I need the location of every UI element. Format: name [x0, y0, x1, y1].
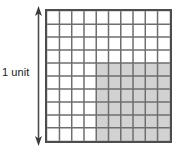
shaded-cell: [145, 89, 157, 102]
shaded-cell: [109, 115, 121, 128]
shaded-cell: [133, 102, 145, 115]
arrow-shaft-and-heads: [35, 6, 42, 146]
shaded-cell: [121, 115, 133, 128]
shaded-cell: [158, 115, 170, 128]
shaded-cell: [145, 76, 157, 89]
shaded-cell: [96, 115, 108, 128]
shaded-cell: [158, 63, 170, 76]
shaded-cell: [96, 89, 108, 102]
shaded-cell: [121, 63, 133, 76]
shaded-cell: [158, 76, 170, 89]
shaded-cell: [109, 76, 121, 89]
shaded-cell: [96, 63, 108, 76]
ten-by-ten-grid: [45, 9, 172, 143]
shaded-cell: [145, 102, 157, 115]
shaded-cell: [109, 89, 121, 102]
shaded-cell: [96, 76, 108, 89]
shaded-cell: [145, 115, 157, 128]
shaded-cell: [133, 63, 145, 76]
shaded-cell: [96, 128, 108, 141]
shaded-cell: [145, 63, 157, 76]
shaded-cell: [121, 76, 133, 89]
shaded-cell: [145, 128, 157, 141]
shaded-cell: [96, 102, 108, 115]
shaded-cell: [158, 102, 170, 115]
shaded-cell: [109, 128, 121, 141]
vertical-double-headed-arrow: [32, 6, 45, 146]
grid-diagram: 1 unit: [0, 0, 187, 155]
shaded-cell: [109, 102, 121, 115]
shaded-cell: [121, 102, 133, 115]
shaded-cell: [121, 128, 133, 141]
shaded-cell: [133, 89, 145, 102]
shaded-cell: [133, 128, 145, 141]
shaded-cell: [158, 128, 170, 141]
shaded-cell: [121, 89, 133, 102]
shaded-cell: [133, 76, 145, 89]
shaded-cell: [133, 115, 145, 128]
unit-length-label: 1 unit: [2, 66, 34, 78]
shaded-cell: [109, 63, 121, 76]
shaded-cell: [158, 89, 170, 102]
